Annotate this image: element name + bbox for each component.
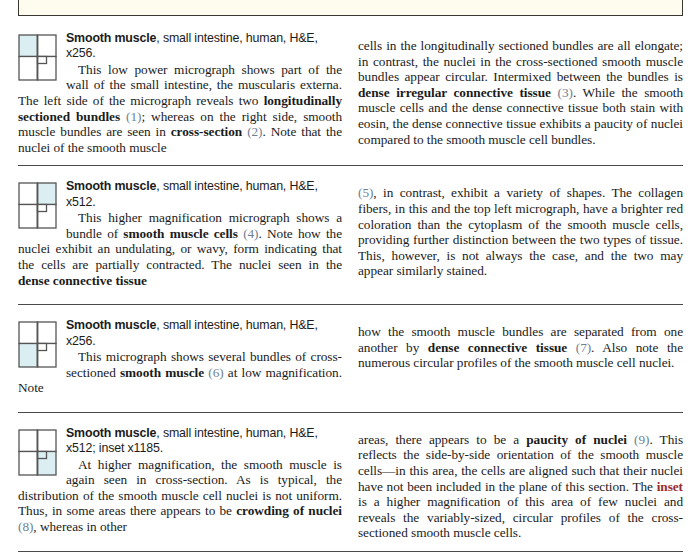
entry-2-left-paragraph: This higher magnification micrograph sho…: [18, 210, 342, 288]
locator-thumbnail-bottom-left-icon: [18, 321, 57, 368]
entry-4-right-paragraph: areas, there appears to be a paucity of …: [358, 432, 683, 541]
locator-thumbnail-top-left-icon: [18, 34, 57, 81]
term-crowding-of-nuclei: crowding of nuclei: [236, 503, 342, 518]
reference-marker-7: (7): [576, 340, 591, 355]
reference-marker-1: (1): [126, 109, 141, 124]
t: [551, 85, 558, 100]
t: areas, there appears to be a: [358, 432, 526, 447]
entry-3-heading-line2: x256.: [66, 334, 96, 348]
entry-2-heading: Smooth muscle, small intestine, human, H…: [18, 179, 342, 210]
spacer: [18, 541, 683, 551]
entry-4-right-column: areas, there appears to be a paucity of …: [358, 426, 683, 541]
t: [567, 340, 576, 355]
entry-4-heading-bold: Smooth muscle: [66, 426, 156, 440]
entry-3-heading-bold: Smooth muscle: [66, 318, 156, 332]
reference-marker-6: (6): [208, 365, 223, 380]
spacer: [18, 288, 683, 304]
term-dense-connective-tissue-2: dense connective tissue: [428, 340, 567, 355]
figure-legend-entry-2: Smooth muscle, small intestine, human, H…: [18, 179, 683, 288]
entry-4-left-column: Smooth muscle, small intestine, human, H…: [18, 426, 342, 541]
entry-2-right-paragraph: (5), in contrast, exhibit a variety of s…: [358, 185, 683, 279]
entry-3-left-column: Smooth muscle, small intestine, human, H…: [18, 318, 342, 396]
inset-reference: inset: [657, 479, 683, 494]
entry-1-right-column: cells in the longitudinally sectioned bu…: [358, 31, 683, 155]
entry-4-left-paragraph: At higher magnification, the smooth musc…: [18, 457, 342, 535]
t: is a higher magnification of this area o…: [358, 494, 683, 540]
locator-thumbnail-top-right-icon: [18, 182, 57, 229]
figure-plate-box: [18, 0, 683, 16]
entry-3-right-column: how the smooth muscle bundles are separa…: [358, 318, 683, 396]
entry-3-heading: Smooth muscle, small intestine, human, H…: [18, 318, 342, 349]
term-dense-irregular-connective-tissue: dense irregular connective tissue: [358, 85, 551, 100]
entry-4-heading-rest: , small intestine, human, H&E,: [156, 426, 317, 440]
spacer: [18, 305, 683, 318]
reference-marker-2: (2): [247, 124, 262, 139]
entry-1-heading: Smooth muscle, small intestine, human, H…: [18, 31, 342, 62]
reference-marker-5: (5): [358, 185, 373, 200]
t: cells in the longitudinally sectioned bu…: [358, 38, 683, 84]
t: [627, 432, 634, 447]
entry-2-left-column: Smooth muscle, small intestine, human, H…: [18, 179, 342, 288]
entry-2-heading-rest: , small intestine, human, H&E,: [156, 179, 317, 193]
entry-1-heading-line2: x256.: [66, 46, 96, 60]
entry-2-right-column: (5), in contrast, exhibit a variety of s…: [358, 179, 683, 288]
term-dense-connective-tissue: dense connective tissue: [18, 273, 147, 288]
term-paucity-of-nuclei: paucity of nuclei: [526, 432, 627, 447]
spacer: [18, 413, 683, 426]
entry-4-heading: Smooth muscle, small intestine, human, H…: [18, 426, 342, 457]
reference-marker-9: (9): [634, 432, 649, 447]
entry-2-heading-line2: x512.: [66, 195, 96, 209]
entry-1-heading-rest: , small intestine, human, H&E,: [156, 31, 317, 45]
entry-3-left-paragraph: This micrograph shows several bundles of…: [18, 349, 342, 396]
figure-legend-entry-3: Smooth muscle, small intestine, human, H…: [18, 318, 683, 396]
spacer: [18, 396, 683, 412]
entry-4-heading-line2: x512; inset x1185.: [66, 441, 163, 455]
figure-legend-entry-1: Smooth muscle, small intestine, human, H…: [18, 31, 683, 155]
figure-legend-entry-4: Smooth muscle, small intestine, human, H…: [18, 426, 683, 541]
entry-2-heading-bold: Smooth muscle: [66, 179, 156, 193]
entry-3-right-paragraph: how the smooth muscle bundles are separa…: [358, 324, 683, 371]
t: , whereas in other: [33, 519, 127, 534]
t: , in contrast, exhibit a variety of shap…: [358, 185, 683, 278]
term-cross-section: cross-section: [171, 124, 242, 139]
entry-1-left-column: Smooth muscle, small intestine, human, H…: [18, 31, 342, 155]
reference-marker-8: (8): [18, 519, 33, 534]
locator-thumbnail-bottom-right-icon: [18, 429, 57, 476]
entry-1-right-paragraph: cells in the longitudinally sectioned bu…: [358, 38, 683, 147]
spacer: [18, 155, 683, 165]
term-smooth-muscle-cells: smooth muscle cells: [123, 226, 238, 241]
term-smooth-muscle: smooth muscle: [120, 365, 204, 380]
entry-1-left-paragraph: This low power micrograph shows part of …: [18, 62, 342, 156]
spacer: [18, 18, 683, 31]
entry-3-heading-rest: , small intestine, human, H&E,: [156, 318, 317, 332]
spacer: [18, 166, 683, 179]
page-content: Smooth muscle, small intestine, human, H…: [18, 18, 683, 552]
reference-marker-3: (3): [558, 85, 573, 100]
reference-marker-4: (4): [243, 226, 258, 241]
entry-1-heading-bold: Smooth muscle: [66, 31, 156, 45]
